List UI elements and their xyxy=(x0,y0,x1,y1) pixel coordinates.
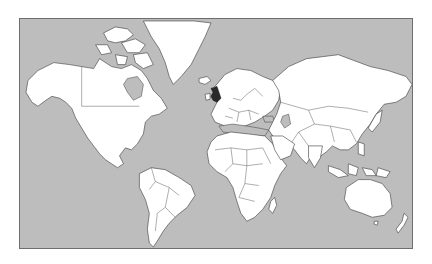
north-america xyxy=(26,59,167,168)
new-zealand xyxy=(396,213,408,233)
world-map-svg xyxy=(20,19,412,248)
south-america xyxy=(139,168,195,247)
indonesia xyxy=(328,164,390,178)
world-map xyxy=(19,18,413,249)
tasmania xyxy=(374,221,378,225)
philippines xyxy=(358,142,364,156)
madagascar xyxy=(269,197,277,213)
australia xyxy=(344,180,392,218)
greenland xyxy=(143,21,211,84)
india xyxy=(309,146,323,168)
iceland xyxy=(199,76,211,84)
ireland xyxy=(205,93,210,100)
